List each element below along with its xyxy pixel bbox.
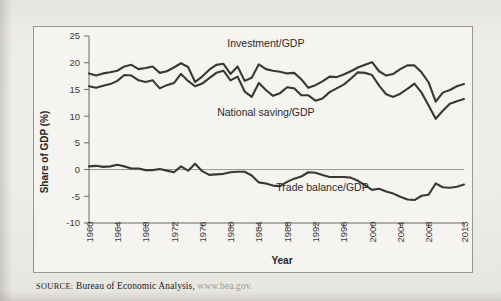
x-tick-label: 1960 bbox=[84, 221, 95, 242]
x-tick-label: 1964 bbox=[112, 221, 123, 242]
x-tick-label: 2013 bbox=[459, 221, 470, 242]
x-tick-label: 1992 bbox=[310, 221, 321, 242]
y-tick-labels: 2520151050-5-10 bbox=[66, 30, 80, 228]
y-tick-label: -5 bbox=[72, 191, 80, 202]
series-annotation: Investment/GDP bbox=[227, 37, 304, 49]
line-chart-svg: 2520151050-5-10 196019641968197219761980… bbox=[34, 27, 474, 274]
y-tick-label: 15 bbox=[69, 84, 80, 95]
series-annotation: Trade balance/GDP bbox=[276, 181, 368, 193]
x-tick-label: 1984 bbox=[253, 221, 264, 242]
source-text: Bureau of Economic Analysis, bbox=[76, 281, 195, 291]
x-tick-label: 1968 bbox=[140, 221, 151, 242]
source-url[interactable]: www.bea.gov. bbox=[197, 281, 252, 291]
y-tick-label: 10 bbox=[69, 111, 80, 122]
x-tick-label: 2000 bbox=[367, 221, 378, 242]
scan-shadow-bottom bbox=[0, 291, 501, 301]
series-lines bbox=[89, 62, 464, 200]
series-annotation: National saving/GDP bbox=[217, 106, 314, 118]
x-tick-label: 1980 bbox=[225, 221, 236, 242]
x-tick-label: 1988 bbox=[282, 221, 293, 242]
y-tick-label: -10 bbox=[66, 217, 80, 228]
figure-source-line: SOURCE: Bureau of Economic Analysis, www… bbox=[36, 281, 252, 291]
source-label: SOURCE: bbox=[36, 282, 74, 291]
figure-panel: 2520151050-5-10 196019641968197219761980… bbox=[33, 26, 473, 273]
y-axis-title: Share of GDP (%) bbox=[39, 111, 50, 194]
y-tick-label: 0 bbox=[75, 164, 80, 175]
y-tick-label: 5 bbox=[75, 137, 80, 148]
y-tick-label: 25 bbox=[69, 30, 80, 41]
chart-plot-area: 2520151050-5-10 196019641968197219761980… bbox=[34, 27, 474, 274]
x-tick-label: 2008 bbox=[423, 221, 434, 242]
x-tick-label: 1972 bbox=[169, 221, 180, 242]
x-tick-label: 2004 bbox=[395, 221, 406, 242]
x-tick-labels: 1960196419681972197619801984198819921996… bbox=[84, 221, 470, 242]
page-background: 2520151050-5-10 196019641968197219761980… bbox=[0, 0, 501, 301]
x-tick-label: 1976 bbox=[197, 221, 208, 242]
x-tick-label: 1996 bbox=[338, 221, 349, 242]
y-tick-label: 20 bbox=[69, 57, 80, 68]
y-axis bbox=[84, 36, 89, 223]
x-axis-title: Year bbox=[271, 255, 292, 266]
scan-shadow-left bbox=[0, 0, 12, 301]
